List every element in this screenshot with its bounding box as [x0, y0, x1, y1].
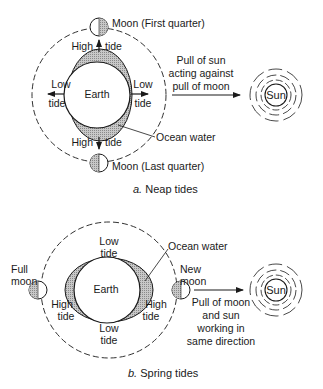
- spring-earth-label: Earth: [93, 283, 118, 295]
- spring-ocean-label: Ocean water: [168, 240, 228, 252]
- neap-caption-letter: a.: [133, 183, 142, 195]
- spring-pull-line2: and sun: [202, 309, 240, 321]
- neap-ocean-label: Ocean water: [156, 131, 216, 143]
- neap-tides-panel: Earth Moon (First quarter) Moon (Last qu…: [32, 17, 302, 195]
- neap-low-tide-right-word2: tide: [135, 97, 152, 109]
- neap-earth-label: Earth: [84, 88, 109, 100]
- neap-ocean-leader: [118, 125, 155, 137]
- spring-full-moon-word2: moon: [11, 275, 37, 287]
- spring-low-tide-top-word1: Low: [99, 235, 119, 247]
- neap-moon-top-label: Moon (First quarter): [112, 17, 205, 29]
- spring-sun-label: Sun: [266, 284, 286, 296]
- spring-tides-panel: Earth Low tide Low tide High tide High t…: [11, 222, 302, 379]
- spring-high-tide-left-word1: High: [51, 298, 73, 310]
- spring-high-tide-left-word2: tide: [58, 310, 75, 322]
- spring-pull-line4: same direction: [187, 335, 255, 347]
- spring-low-tide-bottom-word2: tide: [101, 334, 118, 346]
- spring-low-tide-top-word2: tide: [101, 247, 118, 259]
- spring-pull-line3: working in: [196, 322, 244, 334]
- neap-high-tide-top-word2: tide: [105, 40, 122, 52]
- neap-pull-line2: acting against: [169, 67, 234, 79]
- spring-caption-text: Spring tides: [137, 367, 199, 379]
- tides-diagram: Earth Moon (First quarter) Moon (Last qu…: [0, 0, 323, 389]
- neap-caption-text: Neap tides: [142, 183, 198, 195]
- neap-sun-label: Sun: [266, 89, 286, 101]
- neap-moon-last-quarter: [90, 154, 108, 172]
- neap-caption: a. Neap tides: [133, 183, 198, 195]
- neap-pull-line3: pull of moon: [172, 80, 229, 92]
- spring-high-tide-right-word2: tide: [143, 310, 160, 322]
- spring-pull-line1: Pull of moon: [192, 296, 251, 308]
- neap-low-tide-right-word1: Low: [133, 78, 153, 90]
- spring-low-tide-bottom-word1: Low: [99, 322, 119, 334]
- neap-low-tide-left-word2: tide: [49, 97, 66, 109]
- neap-high-tide-bottom-word2: tide: [105, 136, 122, 148]
- spring-caption: b. Spring tides: [128, 367, 199, 379]
- neap-high-tide-bottom-word1: High: [71, 136, 93, 148]
- neap-moon-first-quarter: [90, 18, 108, 36]
- neap-high-tide-top-word1: High: [71, 40, 93, 52]
- spring-ocean-leader: [145, 249, 168, 281]
- spring-high-tide-right-word1: High: [145, 298, 167, 310]
- spring-new-moon-word1: New: [180, 263, 201, 275]
- spring-caption-letter: b.: [128, 367, 137, 379]
- spring-new-moon-word2: moon: [180, 275, 206, 287]
- neap-pull-line1: Pull of sun: [176, 54, 225, 66]
- spring-full-moon-word1: Full: [11, 263, 28, 275]
- neap-low-tide-left-word1: Low: [51, 78, 71, 90]
- neap-moon-bottom-label: Moon (Last quarter): [112, 160, 204, 172]
